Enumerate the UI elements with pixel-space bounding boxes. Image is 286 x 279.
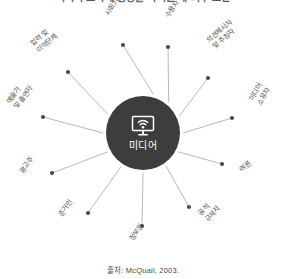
spoke-line-audience xyxy=(168,47,169,102)
spoke-line-public-opinion xyxy=(178,152,222,164)
spoke-line-media-owners xyxy=(183,118,232,133)
spoke-line-advertisers xyxy=(52,152,108,173)
node-dot-audience xyxy=(166,45,170,49)
spoke-line-reference-persons xyxy=(88,167,121,214)
source-caption: 출처: McQuail, 2003. xyxy=(0,264,286,275)
node-dot-artists-performers xyxy=(41,115,45,119)
node-dot-advocates xyxy=(206,76,210,80)
node-dot-public-regulators xyxy=(187,205,191,209)
hub-label: 미디어 xyxy=(129,140,157,151)
diagram-canvas: 미디어 조직에 영향을 미치는 내·외부 요인 미디어 사회기관수용자의견제시자… xyxy=(0,0,286,279)
spoke-line-information-sources xyxy=(142,173,143,226)
spoke-line-advocates xyxy=(179,78,208,116)
spoke-line-public-regulators xyxy=(166,166,189,207)
node-dot-media-owners xyxy=(230,116,234,120)
node-dot-public-opinion xyxy=(220,162,224,166)
hub-node-media: 미디어 xyxy=(106,96,180,170)
spoke-line-artists-performers xyxy=(43,117,103,133)
node-dot-reference-persons xyxy=(86,211,90,215)
spoke-line-social-institutions xyxy=(123,45,153,94)
node-dot-pressure-groups xyxy=(66,70,70,74)
spoke-line-pressure-groups xyxy=(68,72,108,114)
node-dot-advertisers xyxy=(50,171,54,175)
monitor-wifi-icon xyxy=(130,115,156,137)
node-dot-social-institutions xyxy=(121,43,125,47)
